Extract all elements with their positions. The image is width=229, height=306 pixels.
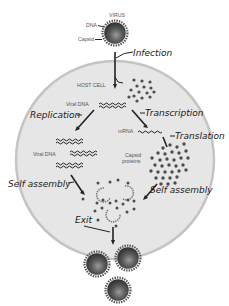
capsid-label: Capsid (78, 36, 94, 42)
virus-label: VIRUS (109, 12, 125, 18)
step-exit: Exit (75, 215, 93, 225)
viral-dna-top-label: Viral DNA (66, 101, 89, 107)
viral-dna-left-label: Viral DNA (33, 151, 56, 157)
released-virus-icon (116, 246, 141, 271)
capsid-proteins-label-2: proteins (122, 158, 141, 164)
step-self-assembly-left: Self assembly (8, 179, 71, 189)
viral-replication-diagram: VIRUS DNA Capsid Infection HOST CELL Vir… (0, 0, 229, 306)
mrna-label: mRNA (118, 128, 134, 134)
released-virus-icon (85, 252, 110, 277)
step-self-assembly-right: Self assembly (150, 185, 213, 195)
step-infection: Infection (133, 48, 173, 58)
step-translation: Translation (175, 131, 225, 141)
host-cell-label: HOST CELL (77, 82, 106, 88)
virus-icon (103, 21, 128, 46)
host-cell (16, 61, 214, 259)
step-transcription: Transcription (145, 108, 204, 118)
dna-leader-line (98, 26, 104, 28)
dna-label: DNA (86, 22, 97, 28)
step-replication: Replication (30, 110, 81, 120)
infection-leader-line (116, 52, 133, 58)
released-virus-icon (106, 278, 131, 303)
